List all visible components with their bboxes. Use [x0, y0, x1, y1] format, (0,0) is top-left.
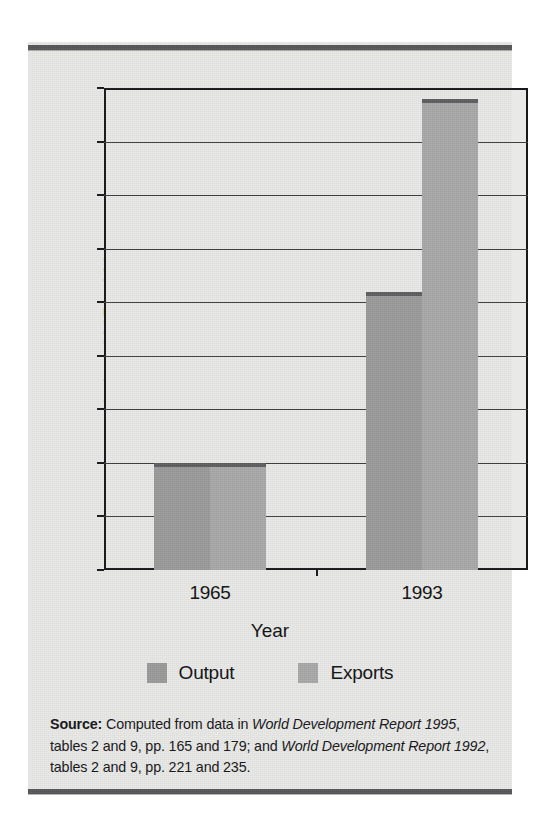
y-tick-mark: [97, 355, 104, 357]
x-axis-center-tick: [316, 570, 318, 576]
bar-exports-1993: [422, 99, 478, 570]
figure-panel: Index, 1965 = 100 0501001502002503003504…: [28, 42, 512, 794]
legend-item-output: Output: [147, 662, 235, 684]
source-note: Source: Computed from data in World Deve…: [50, 714, 490, 779]
bar-output-1965: [154, 463, 210, 570]
bar-cap: [422, 99, 478, 103]
source-title-1: World Development Report 1995: [252, 716, 456, 732]
bar-cap: [210, 463, 266, 467]
y-tick-mark: [97, 248, 104, 250]
source-label: Source:: [50, 716, 102, 732]
y-tick-mark: [97, 462, 104, 464]
source-title-2: World Development Report 1992: [281, 738, 485, 754]
x-tick-label-1993: 1993: [401, 582, 442, 604]
top-rule: [28, 45, 512, 50]
chart-legend: OutputExports: [28, 662, 512, 684]
x-axis-title: Year: [28, 620, 512, 642]
bar-output-1993: [366, 292, 422, 570]
y-tick-mark: [97, 194, 104, 196]
y-tick-mark: [97, 141, 104, 143]
x-tick-label-1965: 1965: [189, 582, 230, 604]
legend-label: Output: [179, 662, 235, 684]
bottom-rule: [28, 789, 512, 794]
plot-area: 050100150200250300350400450: [104, 88, 528, 570]
legend-label: Exports: [330, 662, 393, 684]
legend-item-exports: Exports: [298, 662, 393, 684]
source-text-a: Computed from data in: [102, 716, 252, 732]
y-tick-mark: [97, 87, 104, 89]
y-tick-mark: [97, 569, 104, 571]
bar-cap: [154, 463, 210, 467]
bar-cap: [366, 292, 422, 296]
legend-swatch-output: [147, 663, 167, 683]
y-tick-mark: [97, 515, 104, 517]
y-tick-mark: [97, 408, 104, 410]
bar-exports-1965: [210, 463, 266, 570]
y-tick-mark: [97, 301, 104, 303]
y-axis-title-wrapper: Index, 1965 = 100: [40, 88, 66, 570]
legend-swatch-exports: [298, 663, 318, 683]
